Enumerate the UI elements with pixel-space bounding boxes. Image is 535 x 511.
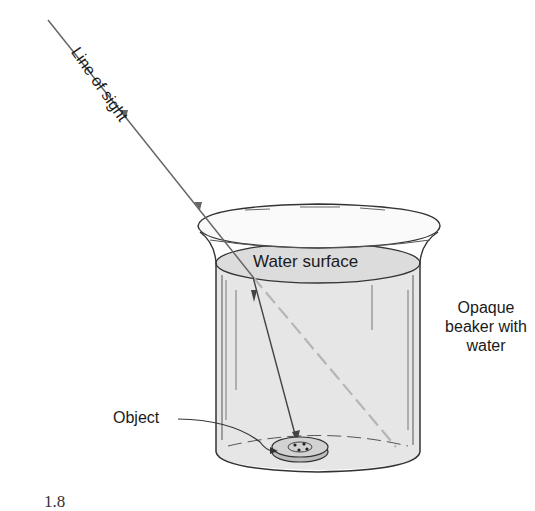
object-label: Object (113, 409, 159, 427)
beaker-label-line1: Opaque (438, 298, 534, 317)
figure-number: 1.8 (44, 492, 65, 511)
beaker-label: Opaque beaker with water (438, 298, 534, 355)
water-surface-label: Water surface (253, 253, 358, 271)
beaker-label-line2: beaker with (438, 317, 534, 336)
beaker-rim (198, 204, 440, 248)
beaker-label-line3: water (438, 336, 534, 355)
object-coin (272, 437, 328, 462)
